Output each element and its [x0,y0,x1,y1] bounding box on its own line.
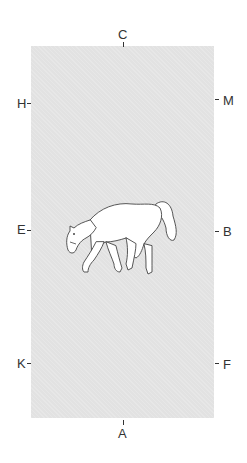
marker-k: K [17,357,26,370]
marker-h: H [17,97,26,110]
tick-e [27,230,31,231]
marker-b: B [223,225,232,238]
marker-f: F [223,358,231,371]
horse-walking-icon [60,192,185,280]
marker-m: M [223,94,234,107]
tick-b [215,231,219,232]
tick-k [27,363,31,364]
tick-c [123,42,124,47]
marker-c: C [118,28,127,41]
tick-f [215,363,219,364]
marker-a: A [118,427,127,440]
tick-h [27,103,31,104]
marker-e: E [17,223,26,236]
tick-a [123,420,124,425]
tick-m [215,99,219,100]
